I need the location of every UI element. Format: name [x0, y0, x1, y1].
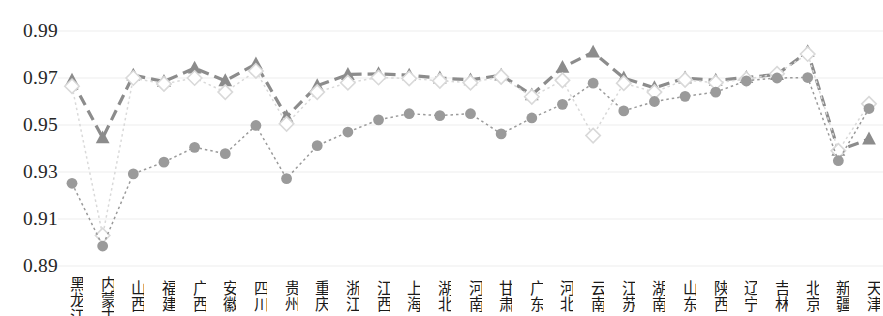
x-axis-tick-label: 山西: [122, 276, 144, 316]
data-point-triangle: [556, 60, 570, 73]
y-axis-tick-label: 0.91: [23, 208, 58, 230]
data-point-circle: [588, 78, 599, 89]
y-axis: 0.890.910.930.950.970.99: [0, 0, 58, 316]
data-point-triangle: [96, 130, 110, 143]
data-point-diamond-open: [494, 70, 508, 84]
x-axis-tick-label: 山东: [674, 276, 696, 316]
data-point-circle: [281, 173, 292, 184]
data-point-circle: [373, 114, 384, 125]
data-point-circle: [128, 168, 139, 179]
data-point-triangle: [862, 132, 876, 145]
x-axis-tick-label: 安徽: [214, 276, 236, 316]
data-point-circle: [680, 91, 691, 102]
data-point-circle: [220, 148, 231, 159]
data-point-diamond-open: [678, 73, 692, 87]
data-point-diamond-open: [95, 228, 109, 242]
x-axis-tick-label: 新疆: [827, 276, 849, 316]
data-point-circle: [496, 129, 507, 140]
data-point-circle: [251, 120, 262, 131]
data-point-circle: [772, 73, 783, 84]
data-point-circle: [97, 241, 108, 252]
x-axis-tick-label: 重庆: [306, 276, 328, 316]
x-axis-tick-label: 甘肃: [490, 276, 512, 316]
x-axis-tick-label: 黑龙江: [61, 276, 83, 316]
data-point-diamond-open: [433, 74, 447, 88]
x-axis-tick-label: 广西: [184, 276, 206, 316]
y-axis-tick-label: 0.97: [23, 67, 58, 89]
x-axis-tick-label: 福建: [153, 276, 175, 316]
x-axis-tick-label: 湖北: [429, 276, 451, 316]
data-point-diamond-open: [65, 79, 79, 93]
x-axis: 黑龙江内蒙古山西福建广西安徽四川贵州重庆浙江江西上海湖北河南甘肃广东河北云南江苏…: [58, 276, 883, 316]
data-point-diamond-open: [218, 85, 232, 99]
line-chart: 0.890.910.930.950.970.99 黑龙江内蒙古山西福建广西安徽四…: [0, 0, 883, 316]
data-point-circle: [741, 75, 752, 86]
series-triangle: [65, 44, 876, 156]
x-axis-tick-label: 湖南: [643, 276, 665, 316]
data-point-circle: [557, 99, 568, 110]
x-axis-tick-label: 江西: [368, 276, 390, 316]
x-axis-tick-label: 河南: [460, 276, 482, 316]
series-diamond-open: [65, 47, 876, 243]
data-point-circle: [189, 142, 200, 153]
x-axis-tick-label: 浙江: [337, 276, 359, 316]
data-point-circle: [526, 113, 537, 124]
y-axis-tick-label: 0.95: [23, 114, 58, 136]
x-axis-tick-label: 广东: [521, 276, 543, 316]
data-point-circle: [67, 178, 78, 189]
x-axis-tick-label: 云南: [582, 276, 604, 316]
x-axis-tick-label: 北京: [797, 276, 819, 316]
data-point-circle: [159, 157, 170, 168]
x-axis-tick-label: 上海: [398, 276, 420, 316]
data-point-triangle: [586, 45, 600, 58]
data-point-circle: [312, 140, 323, 151]
x-axis-tick-label: 江苏: [613, 276, 635, 316]
x-axis-tick-label: 陕西: [705, 276, 727, 316]
data-point-circle: [649, 96, 660, 107]
x-axis-tick-label: 辽宁: [735, 276, 757, 316]
x-axis-tick-label: 四川: [245, 276, 267, 316]
data-point-circle: [342, 127, 353, 138]
data-point-circle: [434, 110, 445, 121]
data-point-circle: [710, 87, 721, 98]
x-axis-tick-label: 吉林: [766, 276, 788, 316]
data-point-circle: [802, 72, 813, 83]
x-axis-tick-label: 天津: [858, 276, 880, 316]
data-point-diamond-open: [586, 128, 600, 142]
data-point-diamond-open: [555, 73, 569, 87]
data-point-diamond-open: [800, 47, 814, 61]
data-point-circle: [864, 103, 875, 114]
y-axis-tick-label: 0.93: [23, 161, 58, 183]
series-circle: [67, 72, 875, 251]
x-axis-tick-label: 河北: [551, 276, 573, 316]
data-point-circle: [404, 108, 415, 119]
plot-area: [58, 0, 883, 276]
plot-svg: [58, 0, 883, 276]
data-point-diamond-open: [310, 85, 324, 99]
data-point-circle: [833, 155, 844, 166]
y-axis-tick-label: 0.99: [23, 20, 58, 42]
x-axis-tick-label: 内蒙古: [92, 276, 114, 316]
data-point-circle: [465, 108, 476, 119]
series-line: [72, 78, 869, 247]
data-point-circle: [618, 106, 629, 117]
x-axis-tick-label: 贵州: [276, 276, 298, 316]
y-axis-tick-label: 0.89: [23, 255, 58, 277]
